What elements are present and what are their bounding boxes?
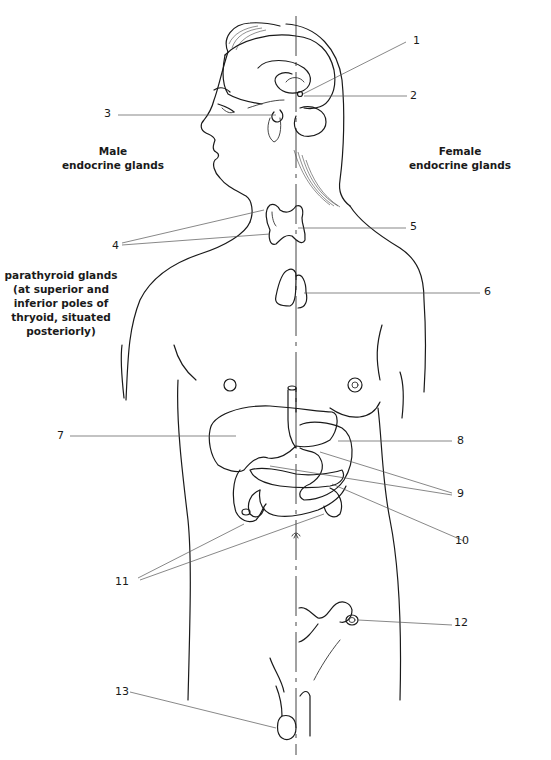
thyroid-gland <box>266 204 305 244</box>
brain <box>223 35 335 136</box>
testis-shape <box>278 716 297 740</box>
label-13: 13 <box>115 686 129 698</box>
label-8: 8 <box>457 435 464 447</box>
male-reproductive <box>270 658 310 740</box>
label-9: 9 <box>457 488 464 500</box>
torso-outline <box>121 206 425 700</box>
female-caption-line: Female <box>405 144 515 158</box>
female-caption-line: endocrine glands <box>405 158 515 172</box>
body-illustration <box>0 0 551 760</box>
label-4: 4 <box>112 240 119 252</box>
label-7: 7 <box>57 430 64 442</box>
label-10: 10 <box>455 535 469 547</box>
label-6: 6 <box>484 286 491 298</box>
parathyroid-caption-line: thryoid, situated <box>2 310 120 324</box>
parathyroid-caption-line: (at superior and <box>2 282 120 296</box>
label-5: 5 <box>410 221 417 233</box>
parathyroid-caption-line: posteriorly) <box>2 324 120 338</box>
parathyroid-caption: parathyroid glands (at superior and infe… <box>2 268 120 338</box>
male-nipple <box>224 379 236 391</box>
label-11: 11 <box>115 576 129 588</box>
head-outline <box>201 23 350 222</box>
thymus-gland <box>276 269 307 308</box>
female-nipple <box>348 378 362 392</box>
label-12: 12 <box>454 617 468 629</box>
label-3: 3 <box>104 108 111 120</box>
male-caption: Male endocrine glands <box>58 144 168 172</box>
label-1: 1 <box>413 35 420 47</box>
endocrine-diagram: Male endocrine glands Female endocrine g… <box>0 0 551 760</box>
label-2: 2 <box>410 90 417 102</box>
female-caption: Female endocrine glands <box>405 144 515 172</box>
male-caption-line: endocrine glands <box>58 158 168 172</box>
parathyroid-caption-line: parathyroid glands <box>2 268 120 282</box>
female-reproductive <box>299 602 358 680</box>
male-caption-line: Male <box>58 144 168 158</box>
parathyroid-caption-line: inferior poles of <box>2 296 120 310</box>
